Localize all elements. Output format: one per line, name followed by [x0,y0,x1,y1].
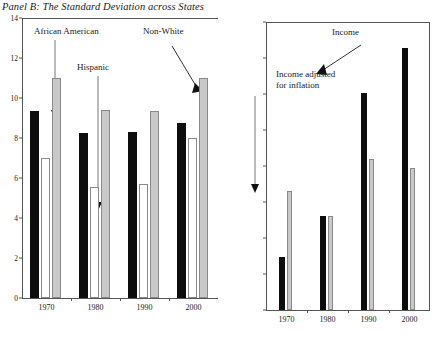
x-axis-tick-label: 1980 [71,303,120,312]
bar-non-white-2000 [199,78,208,298]
x-axis-tick-label: 1970 [22,303,71,312]
annotation-hispanic: Hispanic [77,62,109,73]
bar-income-adjusted-for-inflation-1970 [287,191,293,310]
y-axis-tick-mark [263,94,266,95]
annotation-income-adjusted-line1: Income adjusted [276,69,335,79]
y-axis-tick-mark [19,298,22,299]
x-axis-tick-label: 2000 [389,315,430,324]
y-axis-tick-mark [263,22,266,23]
bar-african-american-1980 [79,133,88,298]
y-axis-tick-mark [19,178,22,179]
x-axis-tick-mark [389,310,390,313]
y-axis-tick-label: 0 [0,294,18,303]
y-axis-tick-mark [263,58,266,59]
x-axis-tick-label: 2000 [169,303,218,312]
bar-hispanic-1990 [139,184,148,298]
annotation-african-american: African American [34,26,99,37]
bar-income-1970 [279,257,285,310]
y-axis-tick-label: 2 [0,254,18,263]
y-axis-tick-mark [263,130,266,131]
y-axis-tick-mark [19,258,22,259]
x-axis-tick-label: 1990 [348,315,389,324]
x-axis-tick-label: 1980 [307,315,348,324]
x-axis-tick-mark [71,298,72,301]
x-axis-tick-mark [120,298,121,301]
y-axis-tick-mark [19,98,22,99]
bar-hispanic-1980 [90,187,99,298]
y-axis-tick-mark [19,18,22,19]
bar-non-white-1990 [150,111,159,298]
bar-income-2000 [402,48,408,310]
bar-income-1990 [361,93,367,310]
y-axis-tick-mark [263,238,266,239]
y-axis-tick-mark [263,274,266,275]
annotation-non-white: Non-White [143,26,184,37]
bar-hispanic-2000 [188,138,197,298]
x-axis-tick-mark [348,310,349,313]
y-axis-tick-mark [263,310,266,311]
x-axis-tick-mark [169,298,170,301]
bar-hispanic-1970 [41,158,50,298]
y-axis-tick-label: 8 [0,134,18,143]
bar-african-american-1990 [128,132,137,298]
y-axis-tick-mark [263,166,266,167]
page-title: Panel B: The Standard Deviation across S… [2,1,204,12]
y-axis-tick-label: 6 [0,174,18,183]
bar-income-1980 [320,216,326,310]
x-axis-tick-label: 1990 [120,303,169,312]
annotation-income-adjusted: Income adjusted for inflation [276,69,362,91]
x-axis-tick-label: 1970 [266,315,307,324]
y-axis-tick-label: 10 [0,94,18,103]
bar-income-adjusted-for-inflation-1990 [369,159,375,310]
bar-non-white-1980 [101,110,110,298]
bar-income-adjusted-for-inflation-1980 [328,216,334,310]
y-axis-tick-label: 12 [0,54,18,63]
panel-left-standard-deviation: Panel B: The Standard Deviation across S… [0,0,219,350]
annotation-income: Income [332,27,359,38]
bar-african-american-2000 [177,123,186,298]
panel-right-income: $-$1,000$2,000$3,000$4,000$5,000$6,000$7… [219,0,432,350]
y-axis-tick-mark [19,138,22,139]
bar-non-white-1970 [52,78,61,298]
x-axis-tick-mark [307,310,308,313]
annotation-income-adjusted-line2: for inflation [276,80,319,90]
y-axis-tick-label: 4 [0,214,18,223]
y-axis-tick-mark [19,58,22,59]
y-axis-tick-label: 14 [0,14,18,23]
bar-income-adjusted-for-inflation-2000 [410,168,416,310]
y-axis-tick-mark [263,202,266,203]
bar-african-american-1970 [30,111,39,298]
y-axis-tick-mark [19,218,22,219]
